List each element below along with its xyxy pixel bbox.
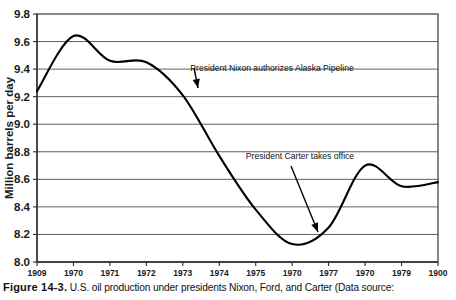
figure-container: 9.89.69.49.29.08.88.68.48.28.0 190919701… <box>0 0 456 300</box>
y-axis-title: Million barrels per day <box>3 76 15 199</box>
figure-caption-text: U.S. oil production under presidents Nix… <box>70 282 394 293</box>
annotation-label: President Carter takes office <box>246 151 354 161</box>
x-tick-label: 1979 <box>392 268 411 278</box>
x-tick-label: 1974 <box>210 268 229 278</box>
chart-area: 9.89.69.49.29.08.88.68.48.28.0 190919701… <box>0 0 456 278</box>
y-tick-label: 9.8 <box>14 8 31 20</box>
line-chart: 9.89.69.49.29.08.88.68.48.28.0 190919701… <box>0 0 456 278</box>
x-tick-label: 1973 <box>173 268 192 278</box>
x-tick-label: 1971 <box>100 268 119 278</box>
y-tick-label: 9.4 <box>14 63 31 75</box>
annotation-leader-line <box>291 166 318 232</box>
annotation-label: President Nixon authorizes Alaska Pipeli… <box>190 63 354 73</box>
x-tick-label: 1977 <box>319 268 338 278</box>
y-tick-label: 8.6 <box>14 173 30 185</box>
x-tick-label: 1970 <box>64 268 83 278</box>
x-tick-label: 1900 <box>429 268 448 278</box>
y-tick-label: 8.8 <box>14 146 31 158</box>
figure-caption: Figure 14-3. U.S. oil production under p… <box>0 281 456 294</box>
y-tick-label: 9.6 <box>14 36 30 48</box>
annotation-arrowhead-icon <box>311 222 318 232</box>
y-tick-label: 9.2 <box>14 91 30 103</box>
x-tick-label: 1909 <box>28 268 47 278</box>
y-tick-label: 9.0 <box>14 118 30 130</box>
y-tick-label: 8.4 <box>14 201 31 213</box>
x-tick-label: 1970 <box>356 268 375 278</box>
x-tick-label: 1975 <box>246 268 265 278</box>
x-tick-label: 1970 <box>283 268 302 278</box>
y-axis-tick-labels: 9.89.69.49.29.08.88.68.48.28.0 <box>14 8 31 268</box>
annotation-arrowhead-icon <box>193 78 200 88</box>
x-tick-label: 1972 <box>137 268 156 278</box>
y-tick-label: 8.2 <box>14 228 30 240</box>
x-axis-tick-labels: 1909197019711972197319741975197019771970… <box>28 268 448 278</box>
figure-caption-label: Figure 14-3. <box>3 281 67 293</box>
y-tick-label: 8.0 <box>14 256 30 268</box>
